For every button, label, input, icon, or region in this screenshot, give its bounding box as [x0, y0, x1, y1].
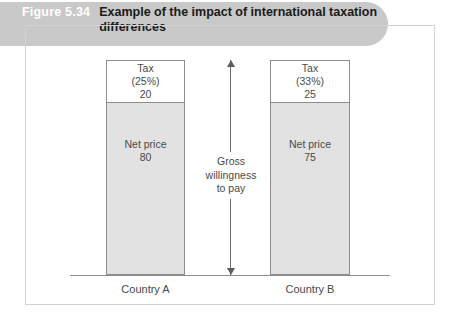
net-price-label-country-b: Net price: [289, 138, 331, 151]
annotation-line-3: to pay: [198, 182, 264, 196]
x-axis-line: [70, 275, 390, 276]
gross-willingness-label: Gross willingness to pay: [198, 152, 264, 199]
net-price-label-country-a: Net price: [124, 138, 166, 151]
bar-segment-net-price-country-b: Net price 75: [270, 103, 350, 275]
annotation-line-1: Gross: [198, 155, 264, 169]
figure-page: Figure 5.34 Example of the impact of int…: [0, 0, 454, 324]
tax-label-country-b: Tax: [302, 62, 318, 75]
annotation-line-2: willingness: [198, 169, 264, 183]
net-price-value-country-a: 80: [140, 151, 152, 164]
tax-label-country-a: Tax: [137, 62, 153, 75]
bar-segment-tax-country-a: Tax (25%) 20: [106, 60, 185, 103]
bar-segment-net-price-country-a: Net price 80: [106, 103, 185, 275]
tax-rate-country-a: (25%): [131, 75, 159, 88]
tax-value-country-b: 25: [304, 88, 316, 101]
x-axis-label-country-b: Country B: [270, 283, 350, 295]
bar-segment-tax-country-b: Tax (33%) 25: [270, 60, 350, 103]
stacked-bar-country-a[interactable]: Tax (25%) 20 Net price 80: [106, 60, 185, 275]
tax-rate-country-b: (33%): [296, 75, 324, 88]
tax-value-country-a: 20: [140, 88, 152, 101]
arrow-head-up-icon: [227, 60, 235, 67]
arrow-head-down-icon: [227, 268, 235, 275]
net-price-value-country-b: 75: [304, 151, 316, 164]
stacked-bar-country-b[interactable]: Tax (33%) 25 Net price 75: [270, 60, 350, 275]
chart-plot-area: Tax (25%) 20 Net price 80 Tax (33%) 25 N…: [0, 0, 454, 324]
x-axis-label-country-a: Country A: [106, 283, 185, 295]
